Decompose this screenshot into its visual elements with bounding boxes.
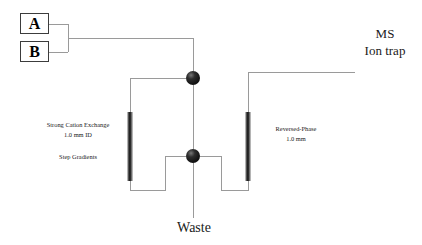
- rp-column-label: Reversed-Phase 1.0 mm: [258, 124, 334, 143]
- reversed-phase-column: [245, 112, 251, 181]
- lower-valve-node[interactable]: [186, 149, 200, 163]
- upper-valve-node[interactable]: [186, 71, 200, 85]
- ms-label-line2: Ion trap: [352, 42, 418, 59]
- line-scx-to-lower-valve: [130, 156, 186, 190]
- lc-ms-flow-diagram: A B Strong Cation Exchange 1.0 mm ID Ste…: [0, 0, 422, 245]
- line-upper-valve-to-scx: [130, 78, 186, 112]
- reservoir-box-a: A: [20, 13, 49, 34]
- reservoir-b-label: B: [29, 44, 40, 60]
- ms-label-line1: MS: [352, 25, 418, 42]
- line-rp-to-ms: [248, 72, 355, 112]
- line-manifold-to-upper-valve: [68, 38, 193, 71]
- reservoir-box-b: B: [20, 41, 49, 62]
- scx-column-name: Strong Cation Exchange: [28, 120, 128, 130]
- waste-outlet-label: Waste: [158, 220, 230, 236]
- line-lower-valve-to-rp: [200, 156, 248, 190]
- scx-gradient-mode-label: Step Gradients: [28, 152, 128, 162]
- ms-detector-label: MS Ion trap: [352, 25, 418, 59]
- scx-column-label: Strong Cation Exchange 1.0 mm ID: [28, 120, 128, 139]
- rp-column-name: Reversed-Phase: [258, 124, 334, 134]
- scx-column-id: 1.0 mm ID: [28, 130, 128, 140]
- rp-column-id: 1.0 mm: [258, 134, 334, 144]
- reservoir-a-label: A: [29, 16, 41, 32]
